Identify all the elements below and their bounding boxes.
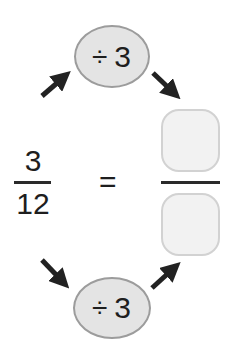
left-fraction-bar — [14, 181, 51, 184]
right-fraction-bar — [161, 181, 220, 184]
divide-sign: ÷ — [92, 41, 108, 73]
arrow-down-right-icon — [42, 260, 63, 282]
left-numerator: 3 — [14, 144, 52, 178]
arrow-up-right-icon — [152, 268, 174, 288]
bottom-operand: 3 — [114, 291, 132, 325]
arrow-up-right-icon — [42, 77, 64, 96]
equals-sign: = — [99, 165, 117, 199]
right-denominator-box[interactable] — [161, 193, 220, 256]
right-numerator-box[interactable] — [161, 109, 220, 172]
top-operand: 3 — [114, 40, 132, 74]
arrow-down-right-icon — [153, 73, 174, 93]
bottom-operation-ellipse: ÷ 3 — [73, 277, 151, 339]
divide-sign: ÷ — [92, 292, 108, 324]
left-denominator: 12 — [14, 187, 52, 221]
top-operation-ellipse: ÷ 3 — [74, 25, 150, 88]
